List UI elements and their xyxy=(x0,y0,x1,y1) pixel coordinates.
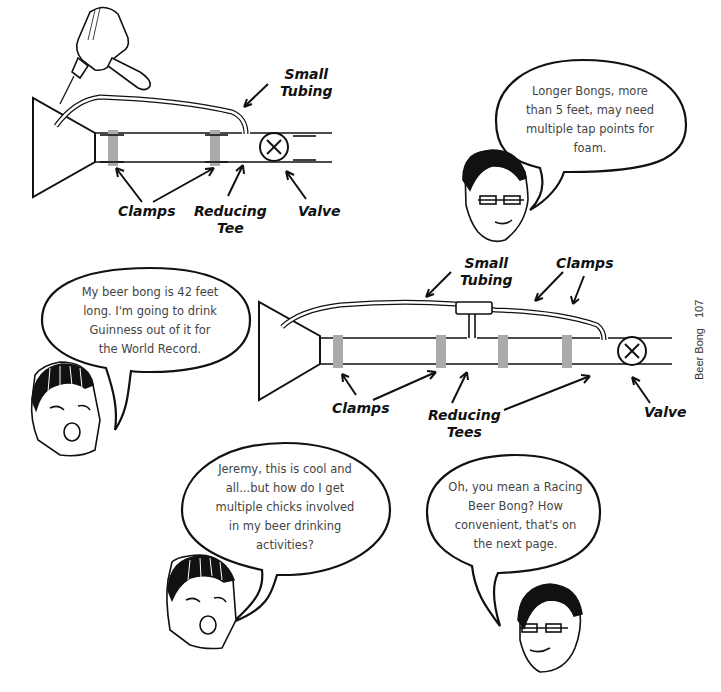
speech-line: the next page. xyxy=(438,535,593,554)
speech-line: Guinness out of it for xyxy=(55,321,245,340)
page-footer: Beer Bong107 xyxy=(693,300,705,380)
speech-line: Beer Bong? How xyxy=(438,497,593,516)
section-title: Beer Bong xyxy=(693,328,705,380)
speech-line: in my beer drinking xyxy=(190,517,380,536)
speech-text-4: Oh, you mean a Racing Beer Bong? How con… xyxy=(438,478,593,554)
speech-text-1: Longer Bongs, more than 5 feet, may need… xyxy=(500,82,680,158)
speech-line: activities? xyxy=(190,536,380,555)
speech-text-3: Jeremy, this is cool and all...but how d… xyxy=(190,460,380,555)
glasses-guy-avatar-bottom xyxy=(518,584,582,672)
speech-line: long. I'm going to drink xyxy=(55,302,245,321)
speech-line: than 5 feet, may need xyxy=(500,101,680,120)
bandana-guy-avatar-top xyxy=(32,362,100,456)
speech-line: Longer Bongs, more xyxy=(500,82,680,101)
speech-line: convenient, that's on xyxy=(438,516,593,535)
speech-line: multiple chicks involved xyxy=(190,498,380,517)
speech-line: multiple tap points for xyxy=(500,120,680,139)
glasses-guy-avatar-top xyxy=(463,150,528,241)
speech-text-2: My beer bong is 42 feet long. I'm going … xyxy=(55,283,245,359)
speech-line: Oh, you mean a Racing xyxy=(438,478,593,497)
speech-line: Jeremy, this is cool and xyxy=(190,460,380,479)
speech-line: the World Record. xyxy=(55,340,245,359)
bandana-guy-avatar-bottom xyxy=(167,555,236,649)
speech-line: foam. xyxy=(500,139,680,158)
page-number: 107 xyxy=(693,300,705,318)
speech-line: all...but how do I get xyxy=(190,479,380,498)
speech-line: My beer bong is 42 feet xyxy=(55,283,245,302)
